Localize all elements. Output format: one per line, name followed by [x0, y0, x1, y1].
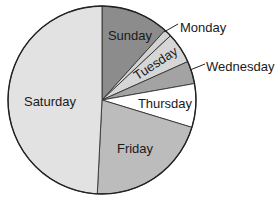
leader-line-monday: [164, 24, 178, 32]
label-monday: Monday: [180, 20, 227, 35]
label-wednesday: Wednesday: [206, 59, 275, 74]
label-friday: Friday: [117, 141, 154, 156]
pie-chart: SundayMondayTuesdayWednesdayThursdayFrid…: [0, 0, 280, 203]
label-sunday: Sunday: [108, 28, 153, 43]
leader-line-wednesday: [190, 64, 205, 70]
label-thursday: Thursday: [138, 96, 193, 111]
pie-chart-svg: SundayMondayTuesdayWednesdayThursdayFrid…: [0, 0, 280, 203]
label-saturday: Saturday: [24, 94, 77, 109]
